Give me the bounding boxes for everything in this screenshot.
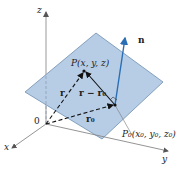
- P-label: P(x, y, z): [70, 58, 110, 68]
- r0-label: r₀: [86, 114, 95, 124]
- P0-label: P₀(x₀, y₀, z₀): [121, 129, 176, 139]
- x-axis-label: x: [4, 142, 9, 152]
- diagram-canvas: z x y 0 P(x, y, z) P₀(x₀, y₀, z₀) n r r …: [0, 0, 180, 172]
- y-axis-label: y: [161, 154, 168, 164]
- point-P: [82, 69, 85, 72]
- z-axis-label: z: [36, 5, 42, 15]
- r-label: r: [60, 88, 65, 98]
- point-P0: [113, 103, 116, 106]
- origin-label: 0: [34, 116, 40, 126]
- x-axis: [12, 124, 46, 148]
- r-minus-r0-label: r − r₀: [79, 88, 106, 98]
- normal-label: n: [138, 35, 145, 45]
